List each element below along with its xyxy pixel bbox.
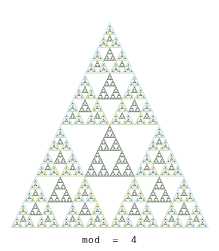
figure-caption: mod = 4 [0,234,219,245]
pascal-triangle-mod4-plot [0,0,219,251]
pascal-mod-figure: mod = 4 [0,0,219,251]
